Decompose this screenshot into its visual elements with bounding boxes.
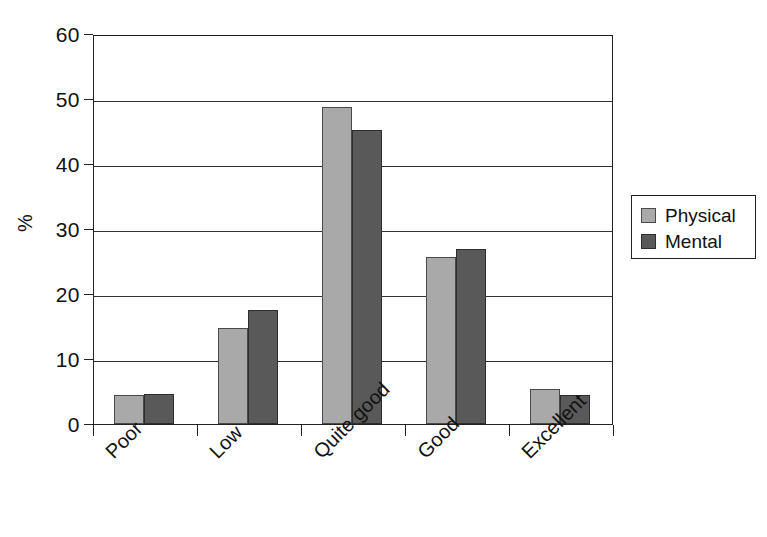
chart-legend: PhysicalMental xyxy=(631,195,756,259)
x-axis-labels: PoorLowQuite goodGoodExcellent xyxy=(0,0,767,537)
x-axis-label-low: Low xyxy=(205,421,247,463)
legend-item-mental: Mental xyxy=(641,228,755,254)
legend-label: Physical xyxy=(665,205,736,226)
legend-swatch-physical xyxy=(641,208,656,223)
legend-label: Mental xyxy=(665,231,722,252)
legend-swatch-mental xyxy=(641,234,656,249)
bar-chart-figure: % 6050403020100 PoorLowQuite goodGoodExc… xyxy=(0,0,767,537)
x-axis-label-quite-good: Quite good xyxy=(309,378,394,463)
legend-item-physical: Physical xyxy=(641,202,755,228)
x-axis-label-good: Good xyxy=(413,412,464,463)
x-axis-label-excellent: Excellent xyxy=(517,390,591,464)
x-axis-label-poor: Poor xyxy=(101,417,147,463)
